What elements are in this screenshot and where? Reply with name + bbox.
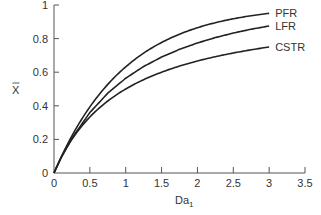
curve-cstr — [54, 47, 269, 173]
x-tick-label: 3.5 — [297, 177, 312, 189]
y-tick-label: 1 — [42, 0, 48, 11]
y-axis-label-text: X — [12, 84, 20, 96]
x-axis-label-text: Da1 — [175, 194, 194, 209]
curve-lfr — [54, 26, 269, 173]
y-ticks: 00.20.40.60.81 — [33, 0, 59, 179]
y-tick-label: 0.2 — [33, 133, 48, 145]
axes — [54, 5, 305, 173]
y-tick-label: 0.6 — [33, 66, 48, 78]
x-ticks: 00.511.522.533.5 — [51, 167, 313, 189]
label-cstr: CSTR — [275, 41, 305, 53]
x-tick-label: 1 — [123, 177, 129, 189]
x-tick-label: 2.5 — [226, 177, 241, 189]
x-tick-label: 0.5 — [82, 177, 97, 189]
conversion-vs-damkohler-chart: 00.20.40.60.81 00.511.522.533.5 PFRLFRCS… — [0, 0, 321, 215]
x-tick-label: 3 — [266, 177, 272, 189]
x-tick-label: 2 — [194, 177, 200, 189]
x-tick-label: 0 — [51, 177, 57, 189]
y-axis-label: X — [12, 83, 20, 96]
curve-pfr — [54, 13, 269, 173]
series-labels: PFRLFRCSTR — [275, 7, 305, 53]
y-tick-label: 0 — [42, 167, 48, 179]
x-tick-label: 1.5 — [154, 177, 169, 189]
series-curves — [54, 13, 269, 173]
y-tick-label: 0.4 — [33, 100, 48, 112]
x-axis-label: Da1 — [175, 194, 194, 209]
y-tick-label: 0.8 — [33, 33, 48, 45]
label-lfr: LFR — [275, 20, 296, 32]
label-pfr: PFR — [275, 7, 297, 19]
